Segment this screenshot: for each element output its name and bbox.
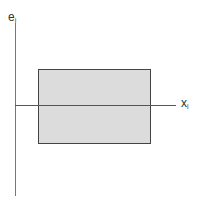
y-axis-label-subscript: i [15, 17, 17, 24]
x-axis-label-subscript: i [187, 103, 189, 110]
x-axis [15, 105, 176, 106]
y-axis-label: ei [8, 11, 16, 24]
y-axis-label-base: e [8, 10, 15, 24]
y-axis [15, 23, 16, 196]
x-axis-label: xi [181, 97, 189, 110]
shaded-region [38, 69, 151, 144]
